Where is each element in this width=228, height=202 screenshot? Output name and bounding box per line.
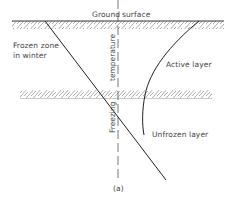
frozen-zone-label: Frozen zone bbox=[13, 42, 59, 50]
freezing-label: Freezing bbox=[109, 102, 117, 133]
permafrost-hatch bbox=[20, 90, 212, 98]
permafrost-diagram: Ground surface Frozen zone in winter Act… bbox=[0, 0, 228, 202]
permafrost-table bbox=[20, 90, 212, 99]
frozen-zone-label-line2: in winter bbox=[13, 52, 47, 60]
surface-label: surface bbox=[122, 11, 150, 19]
figure-caption: (a) bbox=[113, 185, 124, 193]
summer-temperature-curve bbox=[143, 21, 199, 135]
active-layer-label: Active layer bbox=[166, 61, 212, 69]
ground-label: Ground bbox=[92, 11, 120, 19]
winter-temperature-line bbox=[45, 21, 166, 180]
unfrozen-layer-label: Unfrozen layer bbox=[152, 131, 208, 139]
temperature-label: temperature bbox=[109, 34, 117, 81]
